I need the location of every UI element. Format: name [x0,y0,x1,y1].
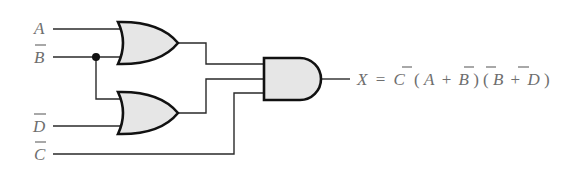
expr-plus-1: + [442,70,452,89]
expr-open-2: ( [483,70,489,89]
expr-plus-2: + [511,70,521,89]
junction-dot [92,53,100,61]
expr-b-bar-2: B [493,70,504,89]
expr-c-bar: C [393,70,405,89]
expr-equals: = [376,70,386,89]
expr-open-1: ( [414,70,420,89]
input-label-b-bar: B [34,48,45,67]
expr-close-2: ) [544,70,550,89]
logic-circuit-diagram: A B D C X = C ( A [0,0,572,172]
expr-b-bar-1: B [458,70,469,89]
or-gate-2 [118,92,178,134]
expr-a: A [423,70,435,89]
input-label-a: A [33,19,45,38]
wire-or1-out [178,43,264,64]
expr-close-1: ) [473,70,479,89]
and-gate [264,58,321,100]
input-label-d-bar: D [32,117,46,136]
output-expression: X = C ( A + B ) ( B + D ) [356,67,550,89]
expr-d-bar: D [526,70,540,89]
expr-x: X [356,70,368,89]
wire-or2-out [178,79,264,113]
output-expression-text: X = C ( A + B ) ( B + D ) [356,70,550,89]
input-label-c-bar: C [34,145,46,164]
or-gate-1 [118,22,178,64]
